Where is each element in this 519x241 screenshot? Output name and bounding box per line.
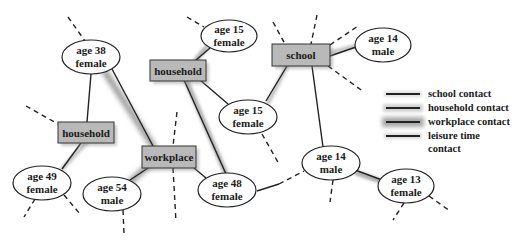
svg-text:female: female [211,190,242,202]
legend-label: school contact [428,87,491,100]
svg-text:age 15: age 15 [233,104,263,116]
place-label: workplace [145,151,194,163]
person-age14-male-top: age 14 male [355,28,411,62]
person-age15-female-top: age 15 female [201,20,257,52]
place-household-left: household [58,122,117,146]
school-contact-line-icon [386,93,420,95]
person-age13-female: age 13 female [378,169,434,203]
edge-household-p49f [62,143,81,169]
legend-item-workplace: workplace contact [386,115,510,129]
svg-text:age 14: age 14 [368,32,398,44]
svg-text:age 54: age 54 [97,181,127,193]
svg-text:male: male [372,45,395,57]
legend-label: household contact [428,101,509,114]
leisure-contact-line-icon [386,135,420,137]
place-label: household [62,127,110,139]
svg-text:male: male [101,194,124,206]
svg-text:age 13: age 13 [391,173,421,185]
edge-p38f-workplace [112,69,153,146]
place-label: household [154,65,202,77]
svg-text:age 15: age 15 [214,23,244,35]
person-age54-male: age 54 male [83,177,141,211]
place-household-top: household [150,60,209,84]
legend-label-line1: leisure time [428,130,480,141]
svg-text:female: female [26,183,57,195]
svg-text:male: male [320,163,343,175]
legend-item-household: household contact [386,101,510,115]
legend-label-line2: contact [428,143,461,154]
legend-item-leisure: leisure time contact [386,129,510,157]
svg-text:female: female [390,186,421,198]
person-age49-female: age 49 female [13,166,71,200]
legend-label: leisure time contact [428,129,480,155]
edge-p38f-household [87,74,91,122]
edge-school-p15f-mid [266,66,287,101]
legend-label: workplace contact [428,115,510,128]
person-age14-male-low: age 14 male [302,146,360,180]
legend-item-school: school contact [386,87,510,101]
workplace-contact-line-icon [386,121,420,123]
svg-text:female: female [213,36,244,48]
place-label: school [286,49,315,61]
svg-text:female: female [232,117,263,129]
person-age38-female: age 38 female [62,40,120,74]
place-school: school [272,44,333,69]
household-contact-line-icon [386,107,420,109]
svg-text:female: female [75,57,106,69]
svg-text:age 14: age 14 [316,150,346,162]
legend: school contact household contact workpla… [386,87,510,157]
place-workplace: workplace [142,146,199,171]
person-age48-female: age 48 female [198,173,256,207]
svg-text:age 49: age 49 [27,170,57,182]
person-age15-female-mid: age 15 female [219,100,277,134]
svg-text:age 48: age 48 [212,177,242,189]
edge-school-p14m-low [312,66,323,147]
svg-text:age 38: age 38 [76,44,106,56]
